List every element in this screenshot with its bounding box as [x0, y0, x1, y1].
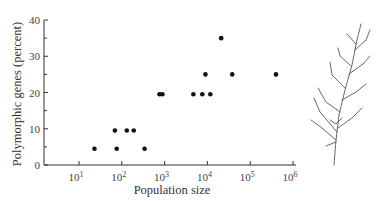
- x-tick-label: 104: [197, 170, 212, 183]
- data-point: [131, 128, 136, 133]
- data-point: [113, 128, 118, 133]
- y-tick-label: 10: [29, 123, 41, 135]
- data-point: [92, 146, 97, 151]
- data-point: [230, 72, 235, 77]
- y-tick-label: 20: [29, 87, 41, 99]
- x-axis-title: Population size: [134, 183, 211, 197]
- y-tick-label: 30: [29, 50, 41, 62]
- data-point: [274, 72, 279, 77]
- data-point: [114, 146, 119, 151]
- data-points: [92, 36, 278, 151]
- y-ticks: 010203040: [29, 14, 48, 171]
- y-tick-label: 0: [35, 159, 41, 171]
- data-point: [200, 92, 205, 97]
- scatter-chart: 010203040 101102103104105106 Polymorphic…: [0, 0, 380, 201]
- data-point: [160, 92, 165, 97]
- data-point: [142, 146, 147, 151]
- y-tick-label: 40: [29, 14, 41, 26]
- x-tick-label: 103: [154, 170, 169, 183]
- y-axis-title: Polymorphic genes (percent): [10, 22, 24, 166]
- data-point: [219, 36, 224, 41]
- x-ticks: 101102103104105106: [69, 161, 298, 183]
- x-tick-label: 102: [111, 170, 126, 183]
- data-point: [208, 92, 213, 97]
- x-tick-label: 101: [69, 170, 84, 183]
- data-point: [125, 128, 130, 133]
- data-point: [203, 72, 208, 77]
- x-tick-label: 105: [240, 170, 255, 183]
- data-point: [191, 92, 196, 97]
- x-tick-label: 106: [283, 170, 298, 183]
- conifer-sprig-illustration: [311, 24, 370, 165]
- axes: [44, 20, 296, 165]
